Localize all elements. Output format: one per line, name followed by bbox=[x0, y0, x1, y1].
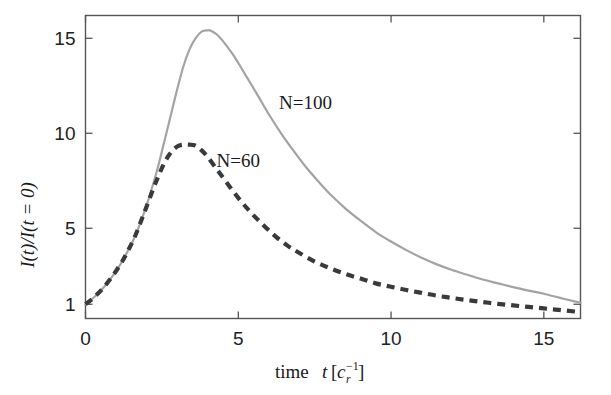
x-axis-title-variable: t bbox=[322, 361, 328, 382]
x-axis-title: time t [ c r −1 ] bbox=[275, 359, 364, 386]
x-tick-label: 0 bbox=[80, 328, 91, 349]
series-annotation-n60: N=60 bbox=[217, 150, 260, 171]
series-annotations: N=100N=60 bbox=[217, 92, 332, 172]
y-tick-label: 1 bbox=[65, 294, 76, 315]
x-tick-label: 10 bbox=[380, 328, 401, 349]
x-axis-title-base: c bbox=[337, 361, 346, 382]
series-line-n100 bbox=[86, 30, 581, 304]
y-axis-tick-labels: 151015 bbox=[54, 28, 75, 315]
figure-container: 051015 151015 N=100N=60 I(t)/I(t = 0) ti… bbox=[0, 0, 611, 395]
y-tick-label: 15 bbox=[54, 28, 75, 49]
plot-frame bbox=[86, 16, 581, 319]
series-annotation-n100: N=100 bbox=[279, 92, 332, 113]
y-tick-label: 5 bbox=[65, 218, 76, 239]
series-line-n60 bbox=[86, 144, 581, 312]
x-axis-tick-labels: 051015 bbox=[80, 328, 554, 349]
x-axis-ticks bbox=[86, 16, 544, 319]
x-axis-title-subscript: r bbox=[346, 372, 351, 386]
x-axis-title-word: time bbox=[275, 361, 309, 382]
x-tick-label: 5 bbox=[233, 328, 244, 349]
y-axis-title: I(t)/I(t = 0) bbox=[17, 182, 39, 269]
line-chart: 051015 151015 N=100N=60 I(t)/I(t = 0) ti… bbox=[0, 0, 611, 395]
x-tick-label: 15 bbox=[533, 328, 554, 349]
x-axis-title-superscript: −1 bbox=[346, 359, 359, 373]
y-tick-label: 10 bbox=[54, 123, 75, 144]
x-axis-title-bracket-close: ] bbox=[358, 361, 364, 382]
